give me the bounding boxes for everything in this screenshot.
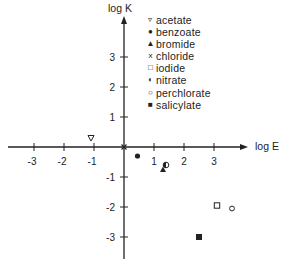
y-tick-label: 2 — [109, 82, 115, 93]
legend-item-perchlorate: ○perchlorate — [146, 87, 211, 99]
square-open-icon: □ — [146, 62, 155, 74]
legend-item-bromide: ▲bromide — [146, 38, 211, 50]
x-tick-label: 3 — [211, 156, 217, 167]
scatter-plot: -3-2-1123321-1-2-3 — [0, 0, 285, 259]
y-tick-label: 3 — [109, 52, 115, 63]
y-tick-label: 1 — [109, 112, 115, 123]
y-tick-label: -3 — [106, 232, 115, 243]
point-perchlorate — [230, 206, 235, 211]
legend-item-nitrate: ◐nitrate — [146, 74, 211, 86]
point-acetate — [88, 136, 94, 142]
point-benzoate — [135, 153, 140, 158]
circle-open-icon: ○ — [146, 87, 155, 99]
legend-item-benzoate: ●benzoate — [146, 26, 211, 38]
x-tick-label: 1 — [151, 156, 157, 167]
point-salicylate — [196, 234, 202, 240]
x-tick-label: -1 — [88, 156, 97, 167]
x-tick-label: -2 — [58, 156, 67, 167]
legend: ▿acetate ●benzoate ▲bromide xchloride □i… — [146, 14, 211, 111]
x-mark-icon: x — [146, 50, 155, 62]
x-tick-label: -3 — [28, 156, 37, 167]
legend-item-chloride: xchloride — [146, 50, 211, 62]
x-axis-arrow-icon — [240, 144, 248, 150]
x-axis-label: log E — [255, 140, 279, 152]
point-iodide — [214, 203, 219, 208]
circle-half-icon: ◐ — [146, 74, 155, 86]
y-tick-label: -2 — [106, 202, 115, 213]
y-tick-label: -1 — [106, 172, 115, 183]
legend-item-acetate: ▿acetate — [146, 14, 211, 26]
circle-filled-icon: ● — [146, 26, 155, 38]
triangle-down-open-icon: ▿ — [146, 14, 155, 26]
triangle-up-filled-icon: ▲ — [146, 38, 155, 50]
y-axis-label: log K — [108, 2, 132, 14]
x-tick-label: 2 — [181, 156, 187, 167]
legend-item-salicylate: ■salicylate — [146, 99, 211, 111]
square-filled-icon: ■ — [146, 99, 155, 111]
y-axis-arrow-icon — [121, 16, 127, 24]
legend-item-iodide: □iodide — [146, 62, 211, 74]
